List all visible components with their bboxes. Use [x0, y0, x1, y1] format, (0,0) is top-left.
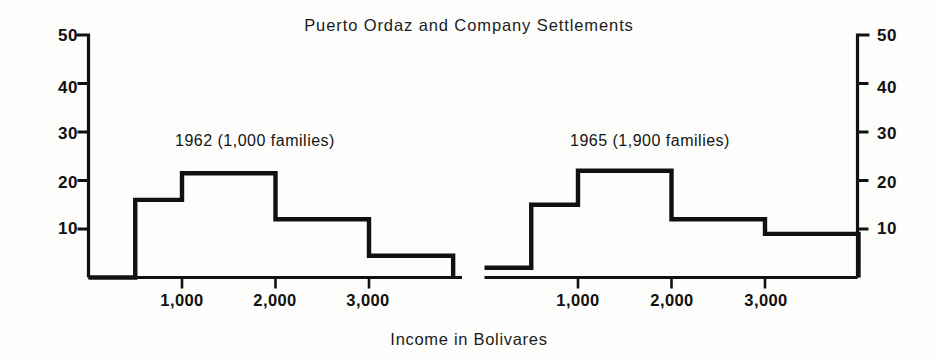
x-axis-left-group	[89, 278, 463, 289]
x-axis-right-ticks	[578, 278, 765, 289]
y-axis-left-ticks	[78, 84, 89, 230]
chart-plot-area	[0, 0, 938, 363]
step-series-1962	[89, 173, 454, 277]
axis-left-group	[77, 35, 89, 278]
step-series-1965	[485, 171, 859, 278]
chart-figure: Puerto Ordaz and Company Settlements 196…	[0, 0, 938, 363]
x-axis-left-ticks	[182, 278, 369, 289]
y-axis-right-ticks	[858, 84, 869, 230]
x-axis-right-group	[485, 278, 858, 289]
y-axis-left-spine	[77, 35, 89, 278]
